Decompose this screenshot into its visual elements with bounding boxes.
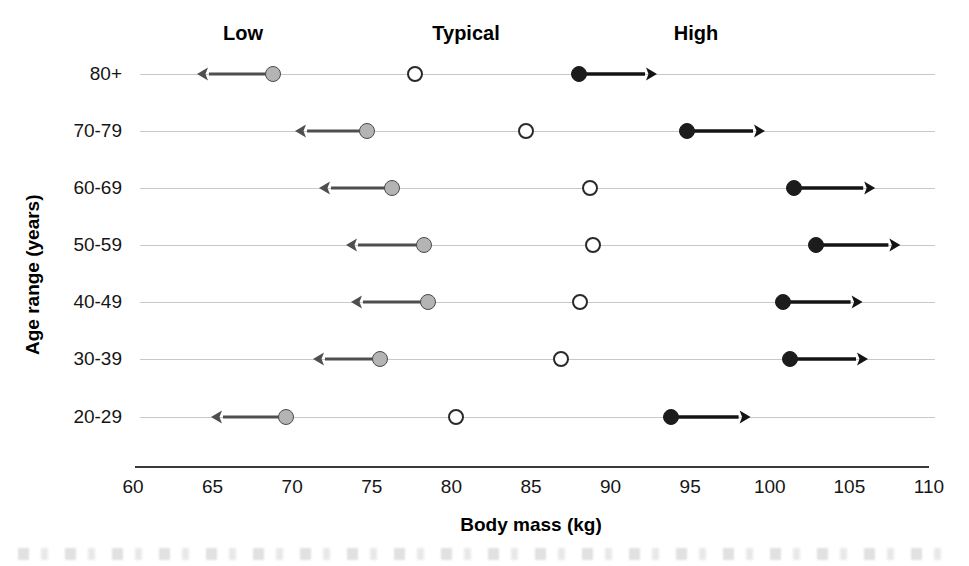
high-arrow (810, 232, 906, 258)
x-tick-110: 110 (914, 476, 944, 498)
low-marker (372, 351, 388, 367)
x-tick-75: 75 (361, 476, 382, 498)
high-marker (679, 123, 695, 139)
typical-marker (448, 409, 464, 425)
x-tick-60: 60 (122, 476, 143, 498)
low-marker (416, 237, 432, 253)
high-marker (782, 351, 798, 367)
x-axis-title: Body mass (kg) (460, 514, 601, 536)
category-label-20-29: 20-29 (0, 406, 122, 428)
x-tick-85: 85 (520, 476, 541, 498)
low-marker (265, 66, 281, 82)
high-marker (571, 66, 587, 82)
low-marker (278, 409, 294, 425)
x-axis-line (135, 466, 929, 468)
high-marker (663, 409, 679, 425)
high-marker (775, 294, 791, 310)
typical-marker (582, 180, 598, 196)
typical-marker (585, 237, 601, 253)
low-marker (420, 294, 436, 310)
typical-marker (518, 123, 534, 139)
typical-marker (553, 351, 569, 367)
category-label-50-59: 50-59 (0, 234, 122, 256)
chart-figure: LowTypicalHigh 80+70-7960-6950-5940-4930… (0, 0, 969, 566)
x-tick-65: 65 (202, 476, 223, 498)
low-marker (384, 180, 400, 196)
column-header-typical: Typical (432, 22, 499, 45)
x-tick-100: 100 (754, 476, 786, 498)
column-header-high: High (674, 22, 718, 45)
column-header-low: Low (223, 22, 263, 45)
typical-marker (407, 66, 423, 82)
high-marker (808, 237, 824, 253)
typical-marker (572, 294, 588, 310)
category-label-60-69: 60-69 (0, 177, 122, 199)
x-tick-70: 70 (282, 476, 303, 498)
x-tick-80: 80 (441, 476, 462, 498)
x-tick-90: 90 (600, 476, 621, 498)
category-label-30-39: 30-39 (0, 348, 122, 370)
y-axis-title: Age range (years) (22, 194, 44, 355)
page-edge-artifact (0, 544, 969, 566)
page-edge-text-smudge (18, 548, 948, 560)
low-marker (359, 123, 375, 139)
category-label-80plus: 80+ (0, 63, 122, 85)
x-tick-105: 105 (834, 476, 866, 498)
high-marker (786, 180, 802, 196)
category-label-40-49: 40-49 (0, 291, 122, 313)
category-label-70-79: 70-79 (0, 120, 122, 142)
x-tick-95: 95 (680, 476, 701, 498)
row-baseline (140, 131, 935, 132)
